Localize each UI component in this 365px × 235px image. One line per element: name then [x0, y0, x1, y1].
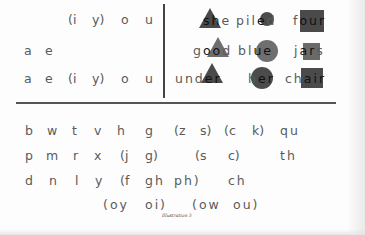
word-blue: blue [238, 44, 273, 58]
word-her: her [248, 72, 275, 86]
letter: p [25, 149, 33, 163]
letter: (c [224, 124, 236, 138]
letter: oi) [145, 198, 167, 212]
vowel-u: u [145, 72, 153, 86]
vowel-o: o [121, 72, 129, 86]
letter: v [94, 124, 101, 138]
letter: ch [228, 174, 247, 188]
letter: h [117, 124, 125, 138]
vowel-e: e [45, 44, 53, 58]
letter: (z [174, 124, 185, 138]
word-chair: chair [285, 72, 326, 86]
letter: (ow [192, 198, 221, 212]
word-she: she [203, 14, 231, 28]
vowel-u: u [145, 13, 153, 27]
letter: r [73, 149, 78, 163]
vowel-e: e [45, 72, 53, 86]
letter: (f [120, 174, 129, 188]
vowel-i: (i [68, 13, 76, 27]
letter: b [25, 124, 33, 138]
letter: (j [120, 149, 128, 163]
letter: x [94, 149, 101, 163]
letter: w [47, 124, 57, 138]
vertical-divider [163, 4, 165, 98]
vowel-i: (i [68, 72, 76, 86]
letter: g [145, 124, 153, 138]
letter: y [95, 174, 102, 188]
vowel-o: o [121, 13, 129, 27]
vowel-a: a [24, 44, 32, 58]
letter: s) [200, 124, 211, 138]
letter: l [75, 174, 78, 188]
letter: ph) [174, 174, 201, 188]
word-jars: jars [294, 44, 325, 58]
caption: Illustration 3 [162, 213, 192, 218]
vowel-y: y) [92, 72, 104, 86]
horizontal-divider [16, 102, 336, 104]
word-good: good [193, 44, 232, 58]
letter: m [46, 149, 58, 163]
letter: gh [145, 174, 165, 188]
letter: n [49, 174, 57, 188]
letter: t [72, 124, 77, 138]
vowel-y: y) [92, 13, 104, 27]
letter: g) [145, 149, 158, 163]
letter: k) [252, 124, 264, 138]
word-piled: piled [236, 14, 277, 28]
letter: qu [280, 124, 300, 138]
letter: (s [195, 149, 206, 163]
word-four: four [293, 14, 326, 28]
letter: th [280, 149, 297, 163]
letter: c) [228, 149, 240, 163]
word-under: under [175, 72, 222, 86]
letter: (oy [103, 198, 129, 212]
vowel-a: a [24, 72, 32, 86]
page-bottom-shadow [0, 229, 365, 235]
letter: ou) [233, 198, 259, 212]
page-edge-shadow [347, 0, 365, 235]
letter: d [25, 174, 33, 188]
